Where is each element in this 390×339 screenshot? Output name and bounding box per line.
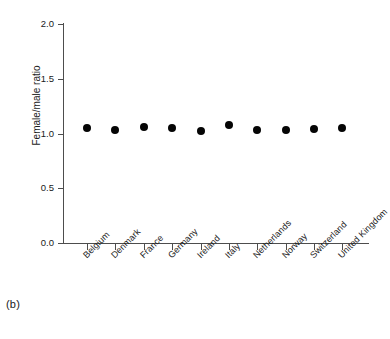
y-axis-tick-label: 1.5 [14,73,54,84]
y-axis-tick-label: 0.5 [14,182,54,193]
x-axis-tick-label: United Kingdom [336,207,389,260]
panel-label: (b) [6,298,20,310]
data-point [168,124,176,132]
data-point [111,126,119,134]
data-point [225,121,233,129]
x-axis-tick-label: France [138,233,165,260]
data-point [197,127,205,135]
x-axis-tick-label: Norway [280,231,309,260]
y-axis-tick-label: 1.0 [14,128,54,139]
y-axis-title: Female/male ratio [31,36,42,176]
data-point [310,125,318,133]
data-point [282,126,290,134]
data-point [140,123,148,131]
x-axis-tick-label: Belgium [81,230,112,261]
y-axis-tick [58,79,64,80]
x-axis-tick-label: Ireland [195,233,222,260]
y-axis-tick-label: 2.0 [14,18,54,29]
y-axis-tick-label: 0.0 [14,237,54,248]
data-point [338,124,346,132]
data-point [253,126,261,134]
y-axis-tick [58,243,64,244]
data-point [83,124,91,132]
y-axis-tick [58,134,64,135]
y-axis-tick [58,24,64,25]
y-axis-tick [58,188,64,189]
